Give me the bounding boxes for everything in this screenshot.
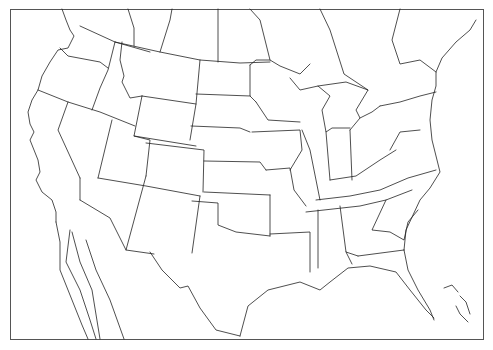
- map-frame: [11, 10, 484, 340]
- us-outline-map: [0, 0, 493, 350]
- state-boundaries: [28, 9, 476, 339]
